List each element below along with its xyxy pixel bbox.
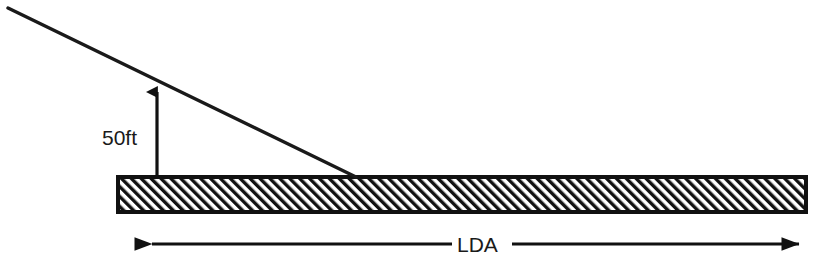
runway-surface-rect <box>118 177 806 212</box>
glideslope-line <box>8 8 356 177</box>
height-label: 50ft <box>102 126 137 149</box>
distance-label: LDA <box>457 233 498 256</box>
diagram-canvas: 50ft LDA <box>0 0 815 271</box>
runway-surface <box>118 177 806 212</box>
runway-lda-diagram: 50ft LDA <box>0 0 815 271</box>
